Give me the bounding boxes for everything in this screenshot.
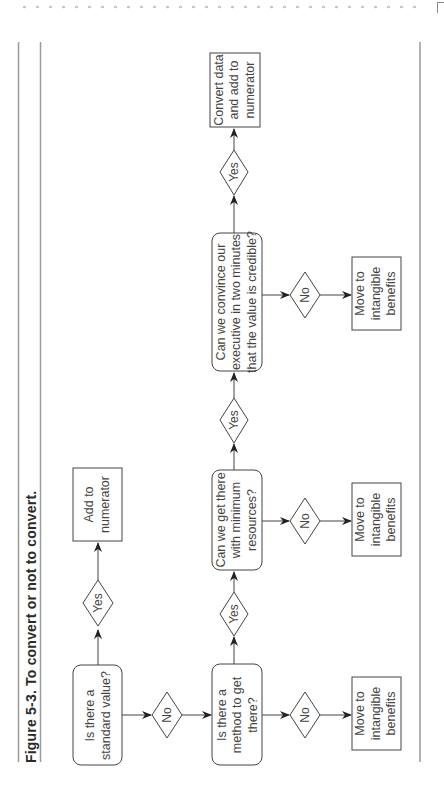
label-line: Move to (353, 691, 369, 735)
label-line: Is there a (214, 688, 230, 740)
yes-text: Yes (91, 593, 105, 613)
decision-yes-2-label: Yes (224, 599, 244, 629)
label-line: intangible (369, 493, 385, 547)
label-line: Add to (82, 486, 98, 522)
label-line: intangible (369, 687, 385, 741)
no-text: No (160, 707, 174, 722)
label-standard-value: Is there a standard value? (73, 665, 122, 765)
label-line: standard value? (98, 671, 114, 760)
label-line: intangible (369, 267, 385, 321)
label-line: executive in two minutes (229, 234, 245, 370)
label-line: Can we convince our (214, 244, 230, 361)
label-line: Is there a (82, 689, 98, 741)
label-line: benefits (384, 498, 400, 542)
decision-no-2-label: No (295, 700, 315, 730)
label-line: benefits (384, 272, 400, 316)
label-line: with minimum (229, 482, 245, 558)
label-line: Can we get there (214, 472, 230, 567)
decision-yes-3-label: Yes (224, 405, 244, 435)
decision-yes-1-label: Yes (88, 588, 108, 618)
yes-text: Yes (227, 604, 241, 624)
label-intangible-3: Move to intangible benefits (352, 257, 401, 330)
label-line: benefits (384, 692, 400, 736)
label-resources: Can we get there with minimum resources? (212, 470, 262, 570)
label-line: numerator (243, 62, 259, 119)
label-line: there? (245, 697, 261, 732)
label-line: and add to (227, 60, 243, 119)
label-convert: Convert data and add to numerator (210, 53, 260, 127)
label-line: method to get (229, 676, 245, 752)
yes-text: Yes (227, 410, 241, 430)
decision-no-3-label: No (295, 506, 315, 536)
no-text: No (298, 287, 312, 302)
label-line: numerator (98, 476, 114, 533)
figure-title-text: Figure 5-3. To convert or not to convert… (23, 491, 39, 763)
label-add-numerator: Add to numerator (73, 468, 122, 541)
yes-text: Yes (227, 162, 241, 182)
label-line: Convert data (212, 54, 228, 126)
decision-yes-4-label: Yes (224, 157, 244, 187)
label-line: Move to (353, 271, 369, 315)
label-intangible-2: Move to intangible benefits (352, 483, 401, 556)
figure-title: Figure 5-3. To convert or not to convert… (21, 277, 41, 763)
decision-no-4-label: No (295, 280, 315, 310)
decision-no-1-label: No (157, 700, 177, 730)
label-method: Is there a method to get there? (212, 664, 262, 765)
label-line: resources? (245, 489, 261, 551)
label-convince: Can we convince our executive in two min… (212, 233, 262, 371)
label-line: Move to (353, 497, 369, 541)
no-text: No (298, 513, 312, 528)
label-intangible-1: Move to intangible benefits (352, 677, 401, 750)
label-line: that the value is credible? (245, 231, 261, 373)
no-text: No (298, 707, 312, 722)
